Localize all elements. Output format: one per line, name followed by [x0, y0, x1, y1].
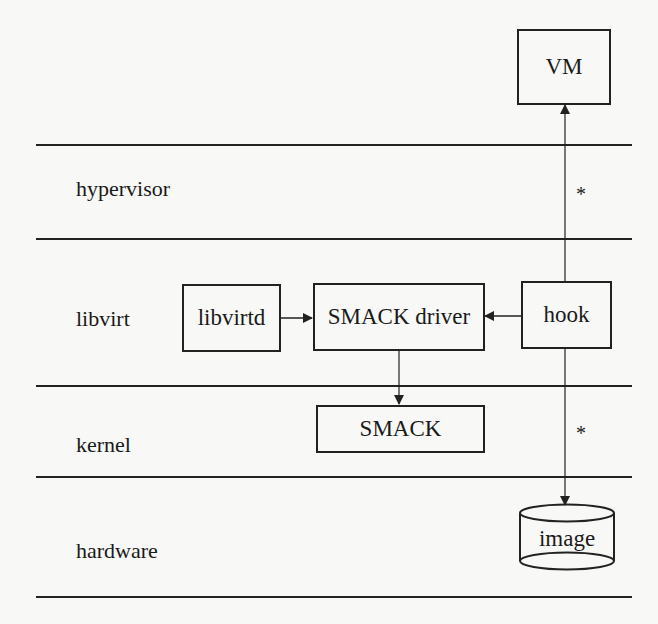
node-smack-driver: SMACK driver: [313, 283, 485, 351]
diagram-canvas: hypervisor libvirt kernel hardware VM li…: [0, 0, 658, 624]
layer-label-hardware: hardware: [76, 540, 158, 562]
node-libvirtd: libvirtd: [182, 284, 281, 352]
annotation-star-upper: *: [576, 184, 586, 204]
node-smack: SMACK: [316, 405, 485, 453]
node-hook: hook: [521, 281, 612, 349]
annotation-star-lower: *: [576, 423, 586, 443]
layer-label-kernel: kernel: [76, 434, 131, 456]
layer-label-libvirt: libvirt: [76, 308, 130, 330]
node-image-label: image: [520, 527, 614, 550]
node-vm: VM: [517, 29, 611, 105]
layer-label-hypervisor: hypervisor: [76, 178, 170, 200]
